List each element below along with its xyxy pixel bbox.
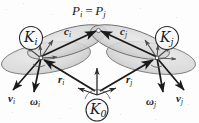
vector-v-i-label: vi [8, 93, 15, 104]
contact-point-equals: = [84, 3, 93, 18]
vector-c-j-label: cj [120, 26, 127, 37]
vector-omega-i-base: ω [30, 95, 38, 107]
frame-0-base: K [90, 101, 100, 117]
vector-r-i-label: ri [58, 74, 64, 85]
vector-v-i-sub: i [13, 97, 15, 106]
rigid-body-contact-figure: Pi=Pj Ki Kj K0 ci cj ri rj vi ωi ωj vj [0, 0, 199, 123]
vector-omega-j-base: ω [146, 95, 154, 107]
vector-omega-i-label: ωi [30, 96, 40, 107]
vector-c-j-sub: j [125, 30, 127, 39]
frame-j-label: Kj [160, 30, 173, 44]
frame-0-sub: 0 [100, 108, 106, 119]
frame-i-base: K [24, 29, 34, 45]
frame-j-base: K [160, 29, 170, 45]
contact-point-equation-label: Pi=Pj [72, 4, 106, 17]
frame-0-label: K0 [90, 102, 107, 116]
vector-omega-j-label: ωj [146, 96, 156, 107]
contact-point-P-j-base: P [95, 3, 103, 18]
frame-i-label: Ki [24, 30, 38, 44]
vector-v-j-label: vj [176, 93, 183, 104]
vector-omega-i-sub: i [38, 100, 40, 109]
contact-point-P-j-sub: j [103, 9, 105, 19]
frame-i-sub: i [34, 36, 37, 47]
vector-v-j-sub: j [181, 97, 183, 106]
vector-c-i-label: ci [64, 26, 71, 37]
vector-r-j-label: rj [126, 74, 132, 85]
vector-omega-j-sub: j [154, 100, 156, 109]
contact-point-marker [96, 28, 100, 32]
contact-point-P-i-base: P [72, 3, 80, 18]
vector-c-i-sub: i [69, 30, 71, 39]
frame-j-sub: j [170, 36, 173, 47]
